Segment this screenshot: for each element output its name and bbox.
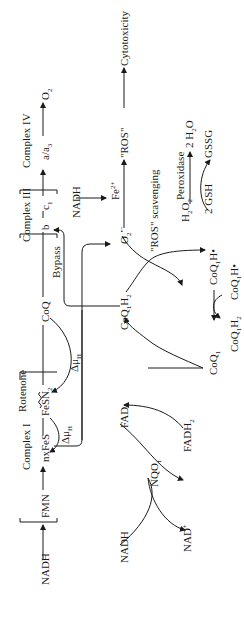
label-aa3: a/a3 [39,143,54,160]
label-cytotoxicity: Cytotoxicity [118,11,130,67]
label-nqo1: NQO1 [148,459,163,487]
label-coq1h2-bottom: CoQ1H2 [228,316,243,352]
arrow-radical-to-coq1h2 [213,295,222,318]
label-b: b [39,224,51,230]
label-nadh-ros: NADH [70,186,82,218]
label-fesn2: FeSN2 [39,387,54,416]
label-superoxide: O2•− [118,226,133,244]
label-complex-1: Complex I [20,423,32,470]
arrow-delta-mu-2 [50,318,71,392]
label-fmn: FMN [39,494,51,518]
label-nadh-nqo1: NADH [118,531,130,563]
label-coq1h-radical-b: CoQ1H• [228,264,243,300]
label-complex-3: Complex III [20,188,32,242]
arrow-to-coq1h-radical [126,250,205,292]
label-water: 2 H2O [183,120,198,148]
label-fadh2: FADH2 [181,419,196,452]
label-rotenone: Rotenone [16,370,28,412]
line-complex1-to-bypass [54,310,82,446]
label-nxfes: nxFeS [39,434,51,462]
label-o2: O2 [39,88,54,100]
arrow-to-coq1h2 [125,318,203,368]
label-coq1h2-top: CoQ1H2 [118,294,133,330]
label-coq: CoQ [39,301,51,322]
label-delta-mu-2: ΔμH [68,354,83,372]
label-coq1h-radical-a: CoQ1H• [207,249,222,285]
label-bypass: Bypass [50,246,62,278]
label-coq1: CoQ1 [207,350,222,375]
label-fad: FAD [118,407,130,428]
label-ros: "ROS" [118,128,130,158]
label-fe2: Fe2+ [109,182,121,201]
label-nad-plus: NAD+ [181,524,193,552]
label-h2o2: H2O2 [179,199,194,222]
arrow-complex1-to-superoxide [82,244,110,440]
label-ros-scavenging: "ROS" scavenging [148,169,160,252]
label-peroxidase: Peroxidase [174,152,186,200]
label-nadh-etc: NADH [39,553,51,585]
label-complex-4: Complex IV [20,113,32,168]
label-delta-mu-1: ΔμH [59,426,74,444]
label-gssg: GSSG [202,130,214,158]
label-c1: c1 [39,201,54,210]
label-gsh: 2 GSH [202,184,214,214]
line-coq1h2-to-bypass [64,252,120,306]
mitochondrial-pathway-diagram: NADH FMN Complex I nxFeS FeSN2 Rotenone … [0,0,244,625]
arrow-fadh2-to-fad [124,405,183,428]
arrow-delta-mu-1 [50,418,59,452]
